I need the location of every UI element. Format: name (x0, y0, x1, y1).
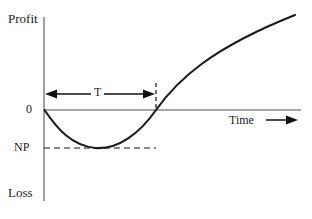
np-tick-label: NP (14, 141, 29, 153)
origin-tick-label: 0 (26, 103, 32, 115)
y-axis-bottom-label: Loss (8, 186, 33, 199)
x-axis-label: Time (229, 114, 254, 126)
period-t-label: T (91, 86, 104, 98)
right-arrow-icon (143, 90, 155, 99)
profit-time-graph: Profit Loss 0 NP T Time (0, 0, 312, 219)
plot-canvas (0, 0, 312, 219)
left-arrow-icon (45, 90, 57, 99)
profit-curve (45, 15, 296, 148)
y-axis-top-label: Profit (8, 12, 38, 25)
time-arrow-icon (266, 116, 298, 125)
